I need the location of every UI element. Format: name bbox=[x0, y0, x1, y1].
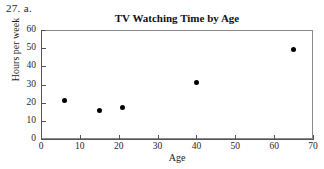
y-tick-label: 10 bbox=[16, 115, 36, 125]
x-tick bbox=[119, 135, 120, 139]
y-tick bbox=[42, 121, 46, 122]
y-tick bbox=[42, 139, 46, 140]
x-tick-label: 40 bbox=[183, 141, 209, 151]
data-point bbox=[120, 105, 125, 110]
y-tick-label: 0 bbox=[16, 133, 36, 143]
x-tick bbox=[158, 135, 159, 139]
y-tick bbox=[42, 30, 46, 31]
x-tick-label: 30 bbox=[145, 141, 171, 151]
plot-area-frame bbox=[41, 30, 313, 139]
y-tick bbox=[42, 103, 46, 104]
x-axis-label: Age bbox=[41, 152, 313, 163]
chart-title: TV Watching Time by Age bbox=[41, 12, 313, 24]
x-tick bbox=[235, 135, 236, 139]
y-tick bbox=[42, 66, 46, 67]
y-tick bbox=[42, 85, 46, 86]
x-tick bbox=[274, 135, 275, 139]
x-tick bbox=[80, 135, 81, 139]
scatter-plot-figure: 27. a. TV Watching Time by Age 010203040… bbox=[0, 0, 324, 169]
x-axis-spine bbox=[41, 139, 314, 140]
x-tick-label: 20 bbox=[106, 141, 132, 151]
x-tick bbox=[313, 135, 314, 139]
y-tick bbox=[42, 48, 46, 49]
x-tick bbox=[196, 135, 197, 139]
x-tick-label: 70 bbox=[300, 141, 324, 151]
x-tick-label: 50 bbox=[222, 141, 248, 151]
x-tick-label: 10 bbox=[67, 141, 93, 151]
x-tick-label: 60 bbox=[261, 141, 287, 151]
y-axis-label: Hours per week bbox=[10, 0, 21, 105]
